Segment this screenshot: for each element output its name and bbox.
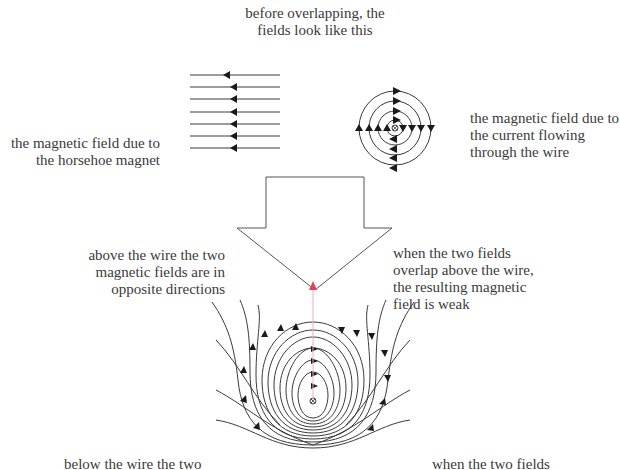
- overlap-arrow-shape: [237, 177, 392, 290]
- magnet-field-diagram: [190, 71, 280, 152]
- wire-field-diagram: [355, 87, 435, 172]
- diagram-canvas: [0, 0, 620, 470]
- red-arrow: [309, 281, 317, 400]
